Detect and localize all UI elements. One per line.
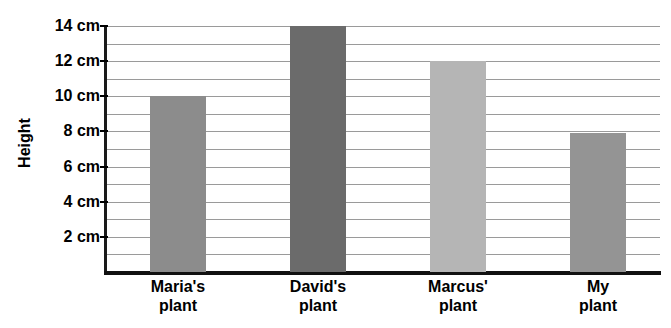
category-label-line1: Marcus' <box>398 278 518 297</box>
category-label-line2: plant <box>258 297 378 316</box>
gridline <box>107 79 660 80</box>
y-axis-tick-mark <box>100 236 108 238</box>
bar[interactable] <box>150 96 206 272</box>
x-axis-category-label: David'splant <box>258 278 378 316</box>
plot-area <box>107 26 661 272</box>
gridline <box>107 44 660 45</box>
x-axis-category-label: Marcus'plant <box>398 278 518 316</box>
y-axis-tick-label: 14 cm <box>36 18 100 34</box>
y-axis-tick-label: 8 cm <box>36 123 100 139</box>
gridline <box>107 26 660 27</box>
y-axis-tick-mark <box>100 25 108 27</box>
gridline <box>107 61 660 62</box>
y-axis-tick-mark <box>100 95 108 97</box>
category-label-line1: Maria's <box>118 278 238 297</box>
y-axis-tick-label: 4 cm <box>36 194 100 210</box>
category-label-line2: plant <box>118 297 238 316</box>
y-axis-tick-label: 10 cm <box>36 88 100 104</box>
category-label-line2: plant <box>398 297 518 316</box>
bar[interactable] <box>290 26 346 272</box>
y-axis-tick-mark <box>100 60 108 62</box>
bar[interactable] <box>570 133 626 272</box>
y-axis-tick-label: 12 cm <box>36 53 100 69</box>
y-axis-tick-mark <box>100 130 108 132</box>
bar-chart: Height 14 cm12 cm10 cm8 cm6 cm4 cm2 cm M… <box>0 0 671 328</box>
category-label-line1: My <box>538 278 658 297</box>
category-label-line2: plant <box>538 297 658 316</box>
y-axis-tick-label: 2 cm <box>36 229 100 245</box>
x-axis-category-labels: Maria'splantDavid'splantMarcus'plantMypl… <box>107 278 661 328</box>
x-axis-category-label: Maria'splant <box>118 278 238 316</box>
y-axis-tick-mark <box>100 166 108 168</box>
category-label-line1: David's <box>258 278 378 297</box>
x-axis-category-label: Myplant <box>538 278 658 316</box>
y-axis-tick-labels: 14 cm12 cm10 cm8 cm6 cm4 cm2 cm <box>32 0 100 328</box>
bar[interactable] <box>430 61 486 272</box>
y-axis-tick-label: 6 cm <box>36 159 100 175</box>
y-axis-tick-mark <box>100 201 108 203</box>
